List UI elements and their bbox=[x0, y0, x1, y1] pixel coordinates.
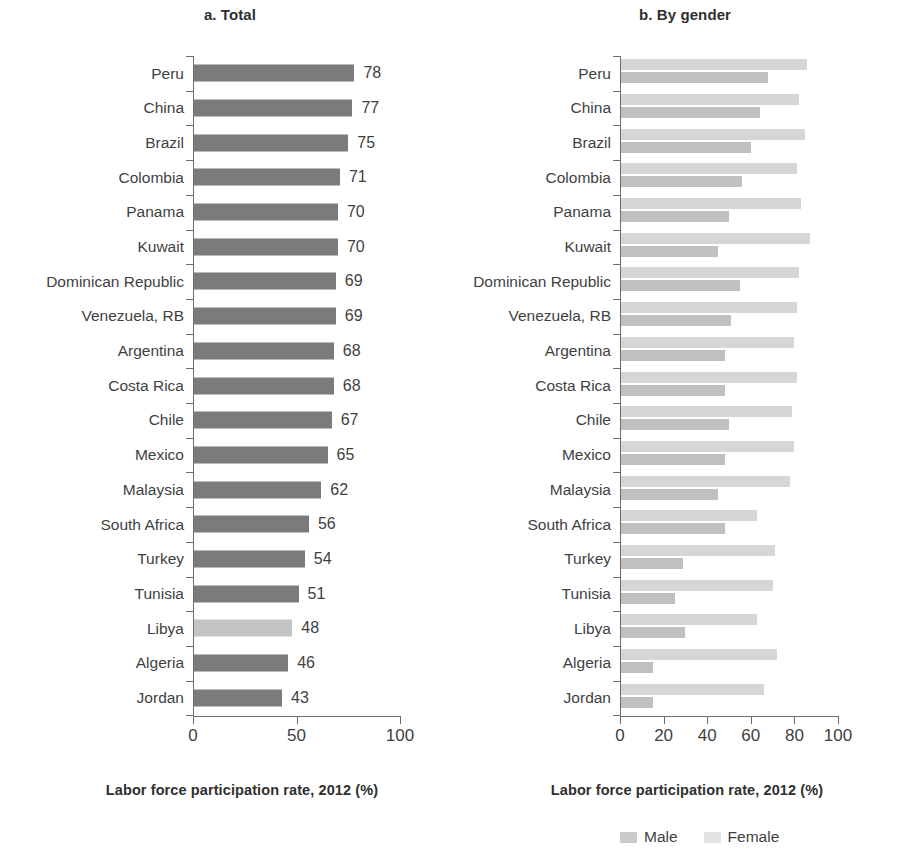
bar-total bbox=[193, 169, 340, 186]
bar-row-total: Costa Rica68 bbox=[0, 368, 460, 403]
bar-track bbox=[620, 542, 914, 577]
y-tick bbox=[613, 160, 620, 161]
bar-value-label: 69 bbox=[345, 308, 363, 324]
bar-male bbox=[620, 476, 790, 487]
bar-row-by-gender: Argentina bbox=[456, 334, 914, 369]
bar-male bbox=[620, 545, 775, 556]
bar-total bbox=[193, 655, 288, 672]
bar-row-total: Venezuela, RB69 bbox=[0, 299, 460, 334]
y-tick bbox=[613, 611, 620, 612]
bar-total bbox=[193, 65, 354, 82]
panel-total: a. Total Peru78China77Brazil75Colombia71… bbox=[0, 0, 460, 820]
category-label: Panama bbox=[456, 204, 620, 220]
bar-value-label: 78 bbox=[363, 65, 381, 81]
bar-track bbox=[620, 160, 914, 195]
y-tick bbox=[613, 230, 620, 231]
y-tick bbox=[613, 334, 620, 335]
y-tick bbox=[613, 91, 620, 92]
bar-female bbox=[620, 558, 683, 569]
x-tick bbox=[400, 716, 401, 724]
y-tick bbox=[613, 195, 620, 196]
y-tick bbox=[613, 542, 620, 543]
y-tick bbox=[613, 646, 620, 647]
bar-track bbox=[620, 56, 914, 91]
bar-row-by-gender: Turkey bbox=[456, 542, 914, 577]
category-label: South Africa bbox=[456, 517, 620, 533]
bar-value-label: 43 bbox=[291, 690, 309, 706]
category-label: Mexico bbox=[456, 447, 620, 463]
bar-value-label: 62 bbox=[330, 482, 348, 498]
bar-track bbox=[620, 472, 914, 507]
bar-male bbox=[620, 510, 757, 521]
bar-female bbox=[620, 142, 751, 153]
panel-by-gender: b. By gender PeruChinaBrazilColombiaPana… bbox=[456, 0, 914, 820]
bar-row-total: Colombia71 bbox=[0, 160, 460, 195]
bar-track: 51 bbox=[193, 576, 460, 611]
x-tick-label: 0 bbox=[188, 727, 197, 744]
bar-value-label: 69 bbox=[345, 273, 363, 289]
x-axis-caption-by-gender: Labor force participation rate, 2012 (%) bbox=[456, 782, 914, 798]
y-tick bbox=[613, 368, 620, 369]
x-tick bbox=[751, 716, 752, 724]
bar-value-label: 68 bbox=[343, 378, 361, 394]
bar-value-label: 46 bbox=[297, 655, 315, 671]
bar-row-total: Chile67 bbox=[0, 403, 460, 438]
bar-track bbox=[620, 125, 914, 160]
bar-row-total: Brazil75 bbox=[0, 125, 460, 160]
bar-value-label: 48 bbox=[301, 620, 319, 636]
bar-value-label: 54 bbox=[314, 551, 332, 567]
y-tick bbox=[613, 472, 620, 473]
y-tick bbox=[613, 715, 620, 716]
bar-total bbox=[193, 100, 352, 117]
bar-track: 69 bbox=[193, 264, 460, 299]
bar-row-total: Mexico65 bbox=[0, 438, 460, 473]
bar-row-total: Tunisia51 bbox=[0, 576, 460, 611]
bar-row-by-gender: Jordan bbox=[456, 680, 914, 715]
y-tick bbox=[613, 264, 620, 265]
y-tick bbox=[186, 299, 193, 300]
bar-track bbox=[620, 646, 914, 681]
bar-value-label: 68 bbox=[343, 343, 361, 359]
bar-female bbox=[620, 627, 685, 638]
bar-row-total: Libya48 bbox=[0, 611, 460, 646]
bar-value-label: 65 bbox=[337, 447, 355, 463]
bar-value-label: 70 bbox=[347, 239, 365, 255]
x-tick-label: 100 bbox=[386, 727, 414, 744]
y-tick bbox=[186, 438, 193, 439]
bar-male bbox=[620, 233, 810, 244]
bar-female bbox=[620, 315, 731, 326]
bar-total bbox=[193, 446, 328, 463]
y-tick bbox=[186, 195, 193, 196]
bar-total bbox=[193, 516, 309, 533]
y-tick bbox=[186, 715, 193, 716]
bar-female bbox=[620, 593, 675, 604]
bar-track: 56 bbox=[193, 507, 460, 542]
bar-track bbox=[620, 91, 914, 126]
bar-female bbox=[620, 107, 760, 118]
bar-rows-total: Peru78China77Brazil75Colombia71Panama70K… bbox=[0, 56, 460, 716]
x-tick bbox=[838, 716, 839, 724]
category-label: Mexico bbox=[0, 447, 193, 463]
bar-female bbox=[620, 280, 740, 291]
y-tick bbox=[186, 646, 193, 647]
bar-track: 46 bbox=[193, 646, 460, 681]
bar-row-total: Jordan43 bbox=[0, 680, 460, 715]
bar-male bbox=[620, 441, 794, 452]
bar-track: 68 bbox=[193, 368, 460, 403]
y-tick bbox=[613, 681, 620, 682]
category-label: Colombia bbox=[0, 170, 193, 186]
x-tick-label: 40 bbox=[698, 727, 717, 744]
category-label: Costa Rica bbox=[0, 378, 193, 394]
y-tick bbox=[186, 403, 193, 404]
legend-entry-female: Female bbox=[704, 828, 780, 846]
bar-track: 75 bbox=[193, 125, 460, 160]
category-label: Argentina bbox=[456, 343, 620, 359]
y-tick bbox=[186, 681, 193, 682]
bar-track: 68 bbox=[193, 334, 460, 369]
bar-row-total: Algeria46 bbox=[0, 646, 460, 681]
category-label: Costa Rica bbox=[456, 378, 620, 394]
bar-total bbox=[193, 342, 334, 359]
legend-entry-male: Male bbox=[620, 828, 678, 846]
y-tick bbox=[613, 56, 620, 57]
category-label: Libya bbox=[456, 621, 620, 637]
